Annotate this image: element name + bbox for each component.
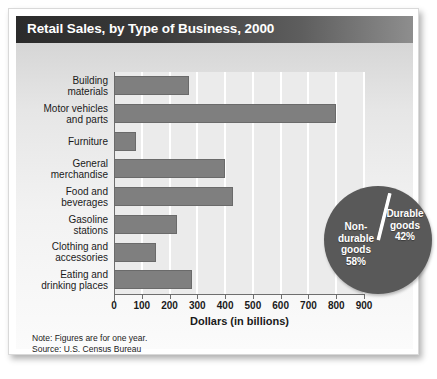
- category-label: Generalmerchandise: [18, 158, 108, 180]
- category-label-line: and parts: [18, 114, 108, 125]
- bar: [114, 243, 156, 262]
- category-label-line: Building: [18, 75, 108, 86]
- category-label-line: accessories: [18, 252, 108, 263]
- x-tick-label: 500: [238, 300, 268, 311]
- pie-slice-label-nondurable: Non-durablegoods58%: [330, 221, 382, 267]
- chart-card: Retail Sales, by Type of Business, 2000 …: [8, 8, 419, 355]
- x-tick-mark: [142, 294, 143, 299]
- pie-label-line: goods: [382, 220, 428, 232]
- bar: [114, 104, 336, 123]
- category-label-line: stations: [18, 225, 108, 236]
- bar: [114, 187, 233, 206]
- x-tick-label: 800: [321, 300, 351, 311]
- source-line: Source: U.S. Census Bureau: [32, 344, 147, 355]
- x-axis-title: Dollars (in billions): [114, 315, 365, 327]
- chart-body: BuildingmaterialsMotor vehiclesand parts…: [16, 43, 413, 349]
- category-label-line: Motor vehicles: [18, 103, 108, 114]
- x-tick-label: 200: [155, 300, 185, 311]
- bar: [114, 215, 177, 234]
- category-label: Eating anddrinking places: [18, 269, 108, 291]
- chart-notes: Note: Figures are for one year. Source: …: [32, 333, 147, 355]
- x-tick-label: 300: [182, 300, 212, 311]
- bar-row: [114, 72, 364, 100]
- x-tick-mark: [197, 294, 198, 299]
- bar: [114, 76, 189, 95]
- category-label-line: Eating and: [18, 269, 108, 280]
- pie-slice-label-durable: Durablegoods42%: [382, 208, 428, 243]
- category-label-line: Clothing and: [18, 241, 108, 252]
- pie-label-line: Non-: [330, 221, 382, 233]
- bar: [114, 159, 225, 178]
- x-tick-mark: [225, 294, 226, 299]
- category-label: Furniture: [18, 136, 108, 147]
- category-label-line: materials: [18, 86, 108, 97]
- pie-label-line: 42%: [382, 231, 428, 243]
- category-label: Clothing andaccessories: [18, 241, 108, 263]
- x-tick-label: 400: [210, 300, 240, 311]
- bar-row: [114, 155, 364, 183]
- category-label-line: drinking places: [18, 280, 108, 291]
- x-tick-mark: [308, 294, 309, 299]
- chart-title-bar: Retail Sales, by Type of Business, 2000: [16, 16, 413, 43]
- category-label-line: Food and: [18, 186, 108, 197]
- note-line: Note: Figures are for one year.: [32, 333, 147, 344]
- x-tick-mark: [336, 294, 337, 299]
- x-tick-label: 600: [266, 300, 296, 311]
- x-tick-mark: [253, 294, 254, 299]
- x-tick-mark: [281, 294, 282, 299]
- page-title: Retail Sales, by Type of Business, 2000: [27, 21, 274, 36]
- category-label-line: Gasoline: [18, 214, 108, 225]
- bar-row: [114, 128, 364, 156]
- x-tick-label: 700: [293, 300, 323, 311]
- category-label-line: beverages: [18, 197, 108, 208]
- pie-label-line: 58%: [330, 256, 382, 268]
- category-label: Food andbeverages: [18, 186, 108, 208]
- x-tick-label: 900: [349, 300, 379, 311]
- bar: [114, 270, 192, 289]
- x-tick-label: 100: [127, 300, 157, 311]
- x-tick-label: 0: [99, 300, 129, 311]
- bar: [114, 132, 136, 151]
- category-label-line: General: [18, 158, 108, 169]
- bar-row: [114, 100, 364, 128]
- category-label: Buildingmaterials: [18, 75, 108, 97]
- pie-chart: Non-durablegoods58% Durablegoods42%: [324, 186, 432, 294]
- x-axis-line: [114, 294, 365, 295]
- x-tick-mark: [170, 294, 171, 299]
- x-tick-mark: [364, 294, 365, 299]
- category-label: Motor vehiclesand parts: [18, 103, 108, 125]
- pie-label-line: Durable: [382, 208, 428, 220]
- x-tick-mark: [114, 294, 115, 299]
- category-label-line: Furniture: [18, 136, 108, 147]
- pie-label-line: durable: [330, 233, 382, 245]
- category-label-line: merchandise: [18, 169, 108, 180]
- category-label: Gasolinestations: [18, 214, 108, 236]
- pie-label-line: goods: [330, 244, 382, 256]
